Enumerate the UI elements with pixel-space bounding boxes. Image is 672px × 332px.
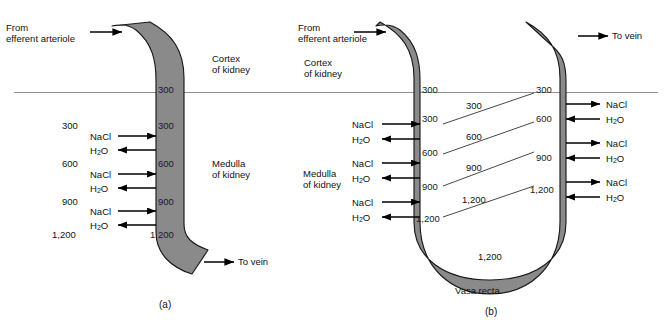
panel-b-ascending-value-900: 900	[536, 152, 552, 163]
panel-b-inlet-line2: efferent arteriole	[298, 33, 367, 44]
panel-a-inlet-label: From efferent arteriole	[6, 22, 75, 44]
panel-b-ascending-value-600: 600	[536, 113, 552, 124]
panel-a-vessel-value-600: 600	[158, 158, 174, 169]
panel-a-vessel-value-300: 300	[158, 120, 174, 131]
panel-b-descending-value-900: 900	[422, 181, 438, 192]
panel-a-interstitial-value-1200: 1,200	[52, 229, 76, 240]
panel-b-isoline-1200	[443, 186, 534, 217]
panel-a-medulla-line1: Medulla	[212, 158, 245, 169]
panel-b-inlet-label: From efferent arteriole	[298, 22, 367, 44]
panel-b-isoline-300	[443, 93, 534, 124]
panel-a-cortex-line2: of kidney	[212, 64, 250, 75]
panel-a-interstitial-value-900: 900	[62, 196, 78, 207]
panel-a-h2o-label-3: H2O	[90, 220, 108, 233]
panel-a-interstitial-value-300: 300	[62, 120, 78, 131]
panel-b-medulla-line1: Medulla	[303, 168, 336, 179]
panel-b-left-h2o-label-1: H2O	[352, 134, 370, 147]
panel-b-descending-value-1200: 1,200	[416, 213, 440, 224]
panel-b-medulla-label: Medulla of kidney	[303, 168, 341, 190]
panel-a-inlet-line2: efferent arteriole	[6, 33, 75, 44]
panel-b-cortex-label: Cortex of kidney	[304, 57, 342, 79]
panel-a-caption: (a)	[159, 299, 171, 310]
panel-b-vasa-recta-label: Vasa recta	[455, 285, 500, 296]
panel-b-ascending-value-300: 300	[536, 84, 552, 95]
panel-b-interstitial-value-900: 900	[466, 162, 482, 173]
panel-a-inlet-line1: From	[6, 22, 28, 33]
panel-a-vessel-value-cortex-300: 300	[158, 84, 174, 95]
panel-b-left-h2o-label-2: H2O	[352, 173, 370, 186]
panel-b-descending-value-cortex-300: 300	[422, 84, 438, 95]
panel-b-left-nacl-label-1: NaCl	[352, 119, 373, 130]
panel-a-medulla-label: Medulla of kidney	[212, 158, 250, 180]
panel-b-left-h2o-label-3: H2O	[352, 212, 370, 225]
panel-b-isoline-600	[443, 122, 534, 154]
panel-a-vessel-value-900: 900	[158, 196, 174, 207]
panel-b-interstitial-value-300: 300	[466, 100, 482, 111]
panel-a-nacl-label-3: NaCl	[90, 206, 111, 217]
panel-b-caption: (b)	[485, 306, 497, 317]
panel-b-outlet-label: To vein	[612, 30, 642, 41]
panel-b-medulla-line2: of kidney	[303, 179, 341, 190]
panel-b-loop-bottom-value: 1,200	[478, 251, 502, 262]
panel-b-descending-value-300: 300	[422, 113, 438, 124]
panel-b-ascending-value-1200: 1,200	[530, 184, 554, 195]
panel-b-right-nacl-label-3: NaCl	[606, 177, 627, 188]
panel-b-right-h2o-label-2: H2O	[606, 153, 624, 166]
panel-a-cortex-label: Cortex of kidney	[212, 53, 250, 75]
panel-b-right-h2o-label-1: H2O	[606, 114, 624, 127]
panel-a-medulla-line2: of kidney	[212, 169, 250, 180]
panel-b-cortex-line2: of kidney	[304, 68, 342, 79]
panel-a-nacl-label-1: NaCl	[90, 131, 111, 142]
panel-a-nacl-label-2: NaCl	[90, 169, 111, 180]
panel-a-h2o-label-2: H2O	[90, 183, 108, 196]
panel-b-left-nacl-label-2: NaCl	[352, 158, 373, 169]
panel-b-cortex-line1: Cortex	[304, 57, 332, 68]
panel-a-vessel-value-1200: 1,200	[150, 229, 174, 240]
panel-b-right-nacl-label-1: NaCl	[606, 99, 627, 110]
panel-a-outlet-label: To vein	[238, 256, 268, 267]
panel-b-right-nacl-label-2: NaCl	[606, 138, 627, 149]
panel-b-interstitial-value-600: 600	[466, 131, 482, 142]
panel-b-lumen	[448, 88, 532, 264]
panel-b-inlet-line1: From	[298, 22, 320, 33]
figure-canvas: From efferent arteriole Cortex of kidney…	[0, 0, 672, 332]
panel-a-h2o-label-1: H2O	[90, 145, 108, 158]
panel-b-interstitial-value-1200: 1,200	[462, 194, 486, 205]
panel-a-cortex-line1: Cortex	[212, 53, 240, 64]
panel-a-interstitial-value-600: 600	[62, 158, 78, 169]
panel-b-isoline-900	[443, 152, 534, 186]
panel-b-right-h2o-label-3: H2O	[606, 192, 624, 205]
panel-b-descending-value-600: 600	[422, 147, 438, 158]
panel-b-left-nacl-label-3: NaCl	[352, 197, 373, 208]
diagram-svg	[0, 0, 672, 332]
